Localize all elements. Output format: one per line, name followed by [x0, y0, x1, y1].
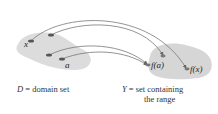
point-2	[48, 33, 54, 36]
domain-text: domain set	[32, 84, 69, 94]
point-fx	[185, 68, 190, 71]
range-text-line1: set containing	[136, 84, 183, 94]
point-3	[46, 53, 52, 56]
range-caption: Y = set containing the range	[122, 84, 183, 104]
domain-equals: =	[23, 84, 32, 94]
range-text-line2: the range	[122, 94, 183, 104]
label-x: x	[24, 39, 28, 49]
label-fa: f(a)	[151, 60, 164, 70]
domain-caption: D = domain set	[17, 84, 69, 94]
range-equals: =	[127, 84, 136, 94]
label-fx: f(x)	[190, 64, 203, 74]
label-a: a	[65, 60, 70, 70]
function-mapping-diagram	[0, 0, 218, 114]
point-fa	[146, 64, 151, 67]
point-x	[28, 39, 34, 42]
point-fa-mid	[161, 55, 166, 58]
